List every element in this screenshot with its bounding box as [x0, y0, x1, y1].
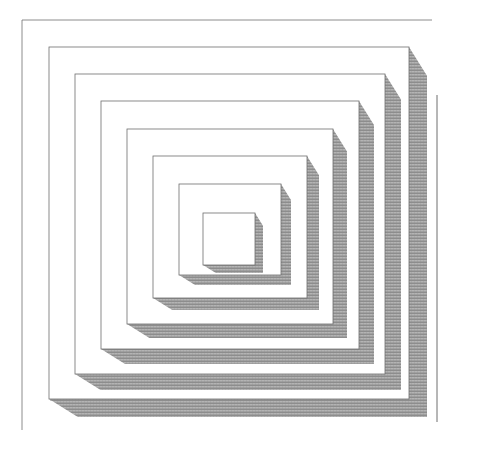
square-face — [203, 213, 255, 265]
nested-squares-illustration — [0, 0, 482, 460]
square-7 — [203, 213, 263, 273]
squares-group — [49, 47, 427, 417]
